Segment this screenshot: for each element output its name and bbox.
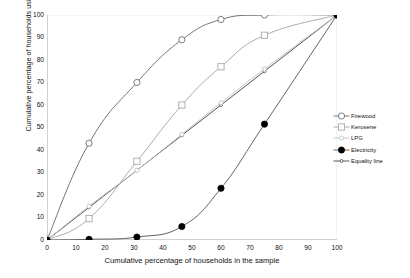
x-tick-label: 60	[210, 245, 232, 252]
legend-item-kerosene[interactable]: Kerosene	[333, 122, 408, 132]
data-point-marker	[219, 101, 223, 105]
y-axis-title: Cumulative percentage of households usin…	[22, 0, 36, 132]
data-point-marker	[338, 113, 344, 119]
y-tick-label: 100	[22, 12, 44, 19]
x-tick-label: 50	[181, 245, 203, 252]
data-point-marker	[86, 236, 92, 240]
data-point-marker	[135, 168, 139, 172]
legend-label: LPG	[350, 135, 363, 141]
legend-item-electricity[interactable]: Electricity	[333, 145, 408, 155]
legend: FirewoodKeroseneLPGElectricityEquality l…	[333, 111, 408, 167]
x-axis-title: Cumulative percentage of households in t…	[46, 256, 338, 265]
legend-marker-icon	[333, 145, 350, 155]
data-point-marker	[134, 234, 140, 240]
data-point-marker	[339, 136, 343, 140]
data-point-marker	[179, 102, 185, 108]
data-point-marker	[87, 204, 91, 208]
data-point-marker	[86, 216, 92, 222]
data-point-marker	[180, 132, 184, 136]
data-point-marker	[218, 16, 224, 22]
x-tick-label: 0	[36, 245, 58, 252]
legend-label: Electricity	[350, 147, 376, 153]
y-tick-label: 0	[22, 237, 44, 244]
legend-item-firewood[interactable]: Firewood	[333, 111, 408, 121]
x-tick-label: 40	[152, 245, 174, 252]
data-point-marker	[134, 158, 140, 164]
data-point-marker	[218, 64, 224, 70]
data-point-marker	[218, 185, 224, 191]
legend-label: Kerosene	[350, 124, 376, 130]
legend-marker-icon	[333, 111, 350, 121]
legend-label: Firewood	[350, 113, 375, 119]
legend-item-equality-line[interactable]: Equality line	[333, 156, 408, 166]
y-tick-label: 90	[22, 34, 44, 41]
x-tick-label: 100	[326, 245, 348, 252]
plot-area	[47, 15, 337, 240]
legend-marker-icon	[333, 133, 350, 143]
data-point-marker	[179, 37, 185, 43]
y-tick-label: 50	[22, 124, 44, 131]
data-point-marker	[261, 15, 267, 18]
data-point-marker	[86, 140, 92, 146]
data-point-marker	[340, 159, 343, 162]
x-tick-label: 10	[65, 245, 87, 252]
y-tick-label: 40	[22, 147, 44, 154]
x-tick-label: 90	[297, 245, 319, 252]
y-tick-label: 60	[22, 102, 44, 109]
legend-marker-icon	[333, 156, 350, 166]
y-tick-label: 80	[22, 57, 44, 64]
data-point-marker	[261, 32, 267, 38]
x-tick-label: 80	[268, 245, 290, 252]
y-tick-label: 20	[22, 192, 44, 199]
data-point-marker	[338, 146, 344, 152]
y-tick-label: 70	[22, 79, 44, 86]
data-point-marker	[179, 223, 185, 229]
x-tick-label: 30	[123, 245, 145, 252]
series-canvas	[47, 15, 337, 240]
y-tick-label: 10	[22, 214, 44, 221]
y-tick-label: 30	[22, 169, 44, 176]
x-tick-label: 20	[94, 245, 116, 252]
data-point-marker	[338, 124, 344, 130]
x-tick-label: 70	[239, 245, 261, 252]
data-point-marker	[262, 67, 266, 71]
data-point-marker	[261, 121, 267, 127]
legend-label: Equality line	[350, 158, 383, 164]
legend-item-lpg[interactable]: LPG	[333, 133, 408, 143]
legend-marker-icon	[333, 122, 350, 132]
lorenz-curve-chart: Cumulative percentage of households usin…	[0, 0, 410, 278]
data-point-marker	[134, 79, 140, 85]
